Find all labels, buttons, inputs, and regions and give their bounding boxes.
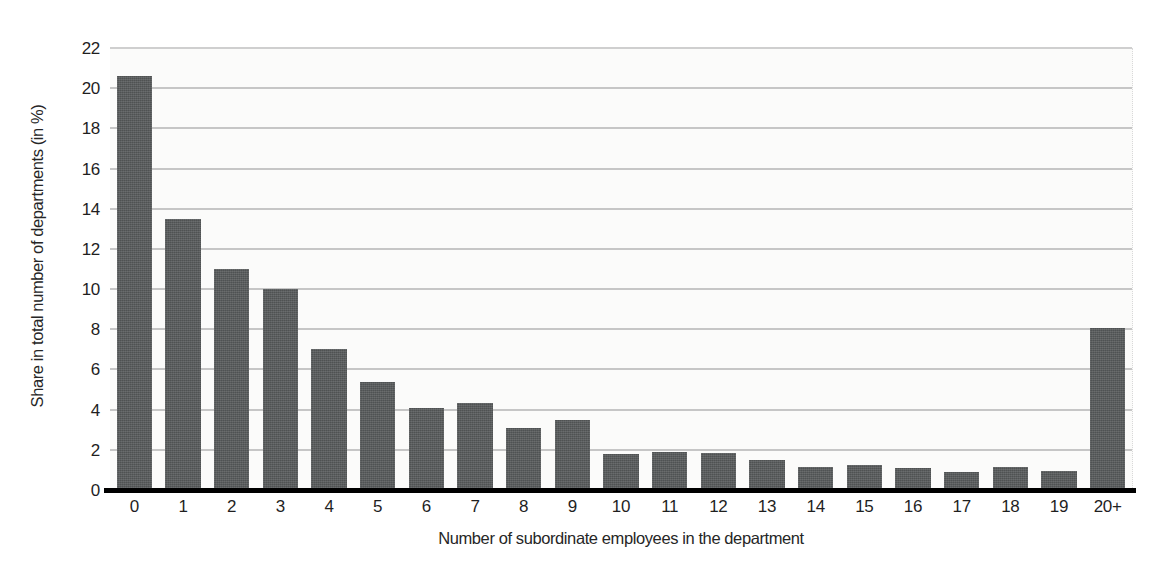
bar-slot — [889, 48, 938, 490]
x-tick-label: 0 — [110, 497, 159, 517]
bar-slot — [159, 48, 208, 490]
bar[interactable] — [457, 403, 493, 490]
bar[interactable] — [895, 468, 931, 490]
bar[interactable] — [360, 382, 396, 490]
y-axis-tick-labels: 0246810121416182022 — [56, 48, 100, 490]
bar-slot — [597, 48, 646, 490]
x-tick-label: 1 — [159, 497, 208, 517]
y-tick-label: 18 — [82, 120, 100, 137]
x-tick-label: 20+ — [1083, 497, 1132, 517]
x-tick-label: 6 — [402, 497, 451, 517]
bar-slot — [110, 48, 159, 490]
y-tick-label: 10 — [82, 281, 100, 298]
x-axis-title: Number of subordinate employees in the d… — [110, 529, 1132, 548]
bar[interactable] — [311, 349, 347, 490]
bar-slot — [986, 48, 1035, 490]
bar-slot — [207, 48, 256, 490]
bar[interactable] — [993, 467, 1029, 490]
bar-slot — [694, 48, 743, 490]
bar-chart: Share in total number of departments (in… — [0, 0, 1164, 580]
bar[interactable] — [652, 452, 688, 490]
bar-slot — [451, 48, 500, 490]
x-tick-label: 11 — [645, 497, 694, 517]
bar-slot — [791, 48, 840, 490]
x-tick-label: 8 — [499, 497, 548, 517]
y-tick-label: 4 — [91, 401, 100, 418]
bar-slot — [840, 48, 889, 490]
x-axis-tick-labels: 01234567891011121314151617181920+ — [110, 497, 1132, 525]
bar-slot — [256, 48, 305, 490]
bar-slot — [353, 48, 402, 490]
y-tick-label: 0 — [91, 482, 100, 499]
x-tick-label: 14 — [791, 497, 840, 517]
x-tick-label: 9 — [548, 497, 597, 517]
y-tick-label: 12 — [82, 240, 100, 257]
bar[interactable] — [701, 453, 737, 490]
y-tick-label: 6 — [91, 361, 100, 378]
bar-slot — [305, 48, 354, 490]
bar-slot — [548, 48, 597, 490]
x-axis-line — [104, 488, 1136, 493]
bar-slot — [1035, 48, 1084, 490]
bar[interactable] — [409, 408, 445, 490]
plot-area — [110, 48, 1133, 490]
bar-slot — [645, 48, 694, 490]
x-tick-label: 4 — [305, 497, 354, 517]
bars-layer — [110, 48, 1132, 490]
x-tick-label: 16 — [889, 497, 938, 517]
bar-slot — [499, 48, 548, 490]
bar-slot — [743, 48, 792, 490]
bar-slot — [1083, 48, 1132, 490]
bar[interactable] — [214, 269, 250, 490]
x-tick-label: 15 — [840, 497, 889, 517]
y-tick-label: 22 — [82, 40, 100, 57]
x-tick-label: 10 — [597, 497, 646, 517]
bar[interactable] — [798, 467, 834, 490]
bar[interactable] — [165, 219, 201, 490]
x-tick-label: 18 — [986, 497, 1035, 517]
y-tick-label: 20 — [82, 80, 100, 97]
y-tick-label: 14 — [82, 200, 100, 217]
x-tick-label: 19 — [1035, 497, 1084, 517]
bar[interactable] — [749, 460, 785, 490]
x-tick-label: 2 — [207, 497, 256, 517]
bar[interactable] — [603, 454, 639, 490]
x-tick-label: 7 — [451, 497, 500, 517]
y-tick-label: 8 — [91, 321, 100, 338]
y-tick-label: 2 — [91, 441, 100, 458]
x-tick-label: 13 — [743, 497, 792, 517]
x-tick-label: 3 — [256, 497, 305, 517]
bar-slot — [402, 48, 451, 490]
x-tick-label: 12 — [694, 497, 743, 517]
bar[interactable] — [506, 428, 542, 490]
x-tick-label: 5 — [353, 497, 402, 517]
y-tick-label: 16 — [82, 160, 100, 177]
bar[interactable] — [555, 420, 591, 490]
bar[interactable] — [1090, 328, 1126, 490]
bar[interactable] — [117, 76, 153, 490]
x-tick-label: 17 — [937, 497, 986, 517]
bar[interactable] — [847, 465, 883, 490]
bar[interactable] — [263, 289, 299, 490]
bar-slot — [937, 48, 986, 490]
y-axis-title: Share in total number of departments (in… — [22, 6, 52, 506]
